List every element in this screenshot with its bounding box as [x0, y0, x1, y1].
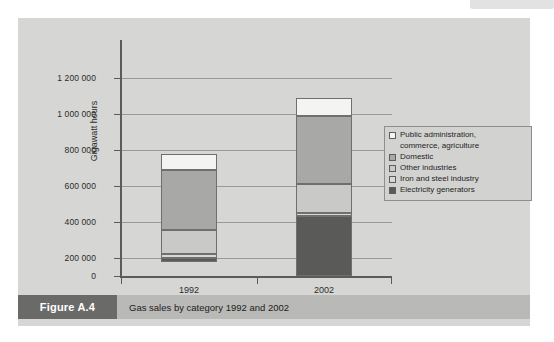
bar-segment-2002-domestic[interactable] [296, 116, 352, 184]
x-tick-left [121, 278, 122, 284]
legend-label-domestic: Domestic [400, 152, 433, 163]
bar-segment-2002-other-industries[interactable] [296, 184, 352, 213]
legend-swatch-electricity-generators [389, 187, 396, 194]
bar-segment-1992-other-industries[interactable] [161, 230, 217, 254]
legend-item-iron-and-steel-industry[interactable]: Iron and steel industry [389, 174, 527, 185]
y-tick-label-600000: 600 000 [0, 181, 96, 191]
legend-swatch-public-administration [389, 132, 396, 139]
y-tick-label-0: 0 [0, 271, 96, 281]
legend-label-iron-and-steel-industry: Iron and steel industry [400, 174, 479, 185]
legend-label-electricity-generators: Electricity generators [400, 185, 475, 196]
x-axis-label-1992: 1992 [159, 285, 219, 295]
legend-item-public-administration[interactable]: Public administration, commerce, agricul… [389, 130, 527, 151]
chart-legend: Public administration, commerce, agricul… [384, 126, 532, 201]
figure-caption-wrap: Gas sales by category 1992 and 2002 [117, 295, 530, 319]
legend-item-domestic[interactable]: Domestic [389, 152, 527, 163]
y-tick-label-400000: 400 000 [0, 217, 96, 227]
y-tick-label-1200000: 1 200 000 [0, 73, 96, 83]
bar-segment-1992-domestic[interactable] [161, 170, 217, 230]
figure-caption-bar: Figure A.4 Gas sales by category 1992 an… [18, 295, 530, 319]
x-axis-label-2002: 2002 [294, 285, 354, 295]
y-tick-label-800000: 800 000 [0, 145, 96, 155]
figure-panel: Gigawatt hours 1 200 000 1 000 000 800 0… [18, 18, 530, 326]
figure-caption-text: Gas sales by category 1992 and 2002 [129, 302, 289, 313]
legend-label-public-administration-line1: Public administration, [400, 130, 476, 139]
bar-segment-2002-public-administration[interactable] [296, 98, 352, 116]
x-tick-right [391, 278, 392, 284]
x-axis-line [120, 276, 392, 278]
scan-edge-artifact [470, 0, 554, 9]
y-tick-label-1000000: 1 000 000 [0, 109, 96, 119]
bar-segment-1992-public-administration[interactable] [161, 154, 217, 170]
bar-segment-1992-electricity-generators[interactable] [161, 258, 217, 262]
y-tick-label-200000: 200 000 [0, 253, 96, 263]
legend-label-other-industries: Other industries [400, 163, 456, 174]
legend-swatch-iron-and-steel-industry [389, 176, 396, 183]
y-axis-line [120, 40, 122, 278]
bar-2002[interactable] [296, 38, 352, 276]
chart-plot-area: Gigawatt hours 1 200 000 1 000 000 800 0… [102, 40, 392, 278]
bar-1992[interactable] [161, 38, 217, 276]
figure-number-tag: Figure A.4 [18, 295, 117, 319]
legend-item-electricity-generators[interactable]: Electricity generators [389, 185, 527, 196]
legend-swatch-other-industries [389, 165, 396, 172]
legend-label-public-administration-line2: commerce, agriculture [400, 141, 479, 150]
x-tick-mid [257, 278, 258, 284]
legend-item-other-industries[interactable]: Other industries [389, 163, 527, 174]
legend-swatch-domestic [389, 154, 396, 161]
bar-segment-2002-electricity-generators[interactable] [296, 216, 352, 276]
